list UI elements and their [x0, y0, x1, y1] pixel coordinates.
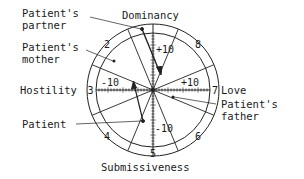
segment-8-label: 8 [195, 39, 201, 50]
father-label-line1: Patient's [221, 98, 278, 110]
axis-label-dominancy: Dominancy [122, 9, 179, 21]
interpersonal-circle-diagram: 2 3 4 5 6 7 8 +10 -10 -10 +10 Dominancy … [0, 0, 304, 179]
mother-label-line1: Patient's [22, 41, 79, 53]
segment-5-label: 5 [150, 148, 156, 159]
patient-label: Patient [22, 118, 66, 130]
segment-7-label: 7 [212, 85, 218, 96]
segment-4-label: 4 [104, 131, 110, 142]
father-label-line2: father [221, 110, 259, 122]
segment-6-label: 6 [195, 131, 201, 142]
scale-up-label: +10 [156, 44, 174, 55]
scale-right-label: +10 [181, 77, 199, 88]
segment-3-label: 3 [88, 85, 94, 96]
axis-label-hostility: Hostility [20, 84, 77, 96]
scale-left-label: -10 [101, 77, 119, 88]
partner-label-line2: partner [22, 19, 66, 31]
axis-label-submissiveness: Submissiveness [101, 161, 190, 173]
partner-label-line1: Patient's [22, 7, 79, 19]
mother-label-line2: mother [22, 53, 60, 65]
scale-down-label: -10 [155, 123, 173, 134]
axis-label-love: Love [221, 84, 246, 96]
segment-2-label: 2 [104, 39, 110, 50]
center-point [151, 88, 155, 92]
